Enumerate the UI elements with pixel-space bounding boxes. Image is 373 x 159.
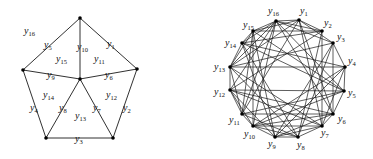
edge-y11-y12	[230, 90, 242, 114]
vertex-y1	[297, 18, 301, 22]
edge-y16-y2	[276, 21, 322, 31]
vertex-y9	[273, 135, 277, 139]
vertex-y4	[343, 65, 347, 69]
edge-y5-y15	[253, 31, 344, 91]
face-label-y13: y13	[74, 110, 86, 122]
left-planar-graph: y5y1y10y9y6y4y2y8y7y3y16y15y11y14y12y13	[21, 16, 139, 145]
vertex-label-y5: y5	[347, 87, 356, 99]
vertex-y12	[228, 88, 232, 92]
edge-y6-y7	[322, 114, 333, 126]
face-label-y14: y14	[42, 89, 55, 101]
vertex-label-y7: y7	[320, 127, 329, 139]
vertex-bottom_right	[111, 136, 115, 140]
vertex-label-y10: y10	[243, 128, 255, 140]
vertex-label-y1: y1	[299, 5, 308, 17]
vertex-label-y13: y13	[213, 61, 225, 73]
vertex-y16	[274, 19, 278, 23]
vertex-label-y11: y11	[228, 114, 240, 126]
edge-label-y1: y1	[106, 38, 115, 50]
vertex-y13	[228, 65, 232, 69]
vertex-right	[135, 67, 139, 71]
right-graph-edges	[230, 20, 345, 137]
edge-label-y4: y4	[29, 102, 38, 114]
edge-label-y7: y7	[92, 102, 101, 114]
edge-y3-y4	[333, 43, 345, 67]
vertex-label-y9: y9	[267, 138, 276, 150]
edge-label-y5: y5	[43, 39, 52, 51]
vertex-y10	[251, 124, 255, 128]
edge-label-y6: y6	[104, 69, 113, 81]
vertex-label-y16: y16	[267, 5, 280, 17]
vertex-label-y6: y6	[337, 113, 346, 125]
vertex-y2	[320, 29, 324, 33]
vertex-y3	[331, 41, 335, 45]
vertex-label-y4: y4	[347, 55, 356, 67]
edge-y4	[23, 70, 46, 138]
vertex-center	[78, 77, 82, 81]
edge-y4-y5	[344, 67, 345, 91]
vertex-label-y2: y2	[323, 17, 332, 29]
right-graph-labels: y1y2y3y4y5y6y7y8y9y10y11y12y13y14y15y16	[213, 5, 356, 151]
face-label-y12: y12	[105, 89, 117, 101]
face-label-y15: y15	[55, 53, 67, 65]
edge-label-y10: y10	[76, 41, 88, 53]
edge-label-y2: y2	[122, 102, 131, 114]
vertex-y6	[331, 112, 335, 116]
edge-y4-y9	[275, 67, 345, 137]
vertex-y5	[342, 89, 346, 93]
vertex-bottom_left	[44, 136, 48, 140]
edge-y4-y14	[242, 43, 345, 67]
face-label-y11: y11	[93, 53, 105, 65]
vertex-label-y14: y14	[224, 37, 237, 49]
vertex-label-y15: y15	[242, 19, 254, 31]
edge-y15-y13	[230, 31, 253, 67]
vertex-label-y8: y8	[296, 139, 305, 151]
right-dual-graph: y1y2y3y4y5y6y7y8y9y10y11y12y13y14y15y16	[213, 5, 356, 151]
diagram-canvas: y5y1y10y9y6y4y2y8y7y3y16y15y11y14y12y13 …	[0, 0, 373, 159]
face-label-y16: y16	[23, 25, 36, 37]
edge-label-y3: y3	[74, 133, 83, 145]
edge-y10-y11	[242, 114, 253, 126]
edge-y1-y7	[299, 20, 322, 126]
vertex-left	[21, 68, 25, 72]
vertex-top	[78, 16, 82, 20]
vertex-y11	[240, 112, 244, 116]
vertex-label-y12: y12	[213, 86, 225, 98]
vertex-y14	[240, 41, 244, 45]
edge-label-y9: y9	[46, 69, 55, 81]
edge-y12-y5	[230, 90, 344, 91]
vertex-label-y3: y3	[336, 31, 345, 43]
